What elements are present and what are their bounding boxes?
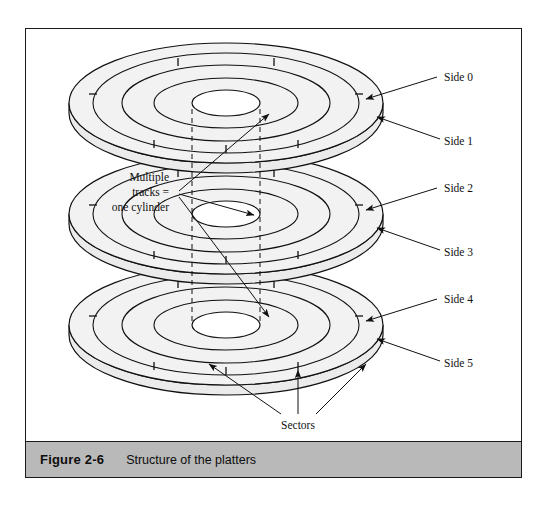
hub-top	[192, 90, 260, 116]
side-label-3: Side 3	[444, 246, 473, 258]
leader-side-3	[377, 228, 440, 250]
figure-caption-title: Structure of the platters	[126, 453, 256, 467]
figure-caption-bar: Figure 2-6 Structure of the platters	[26, 441, 521, 477]
cylinder-label-line-2: tracks =	[132, 186, 169, 198]
side-label-4: Side 4	[444, 293, 473, 305]
cylinder-label-line-1: Multiple	[129, 171, 169, 184]
platter-diagram-svg: Side 0 Side 1 Side 2 Side 3 Side 4 Side …	[26, 29, 521, 441]
side-label-1: Side 1	[444, 135, 473, 147]
sectors-label: Sectors	[281, 419, 315, 431]
platter-diagram: Side 0 Side 1 Side 2 Side 3 Side 4 Side …	[26, 29, 521, 441]
figure-page: Side 0 Side 1 Side 2 Side 3 Side 4 Side …	[0, 0, 547, 512]
leader-side-1	[377, 117, 440, 139]
figure-caption-number: Figure 2-6	[40, 452, 104, 467]
figure-frame: Side 0 Side 1 Side 2 Side 3 Side 4 Side …	[25, 28, 522, 478]
hub-bottom	[192, 312, 260, 338]
side-label-2: Side 2	[444, 182, 473, 194]
side-label-0: Side 0	[444, 71, 473, 83]
cylinder-label-line-3: one cylinder	[112, 201, 169, 214]
side-label-5: Side 5	[444, 357, 473, 369]
leader-side-5	[377, 339, 440, 361]
